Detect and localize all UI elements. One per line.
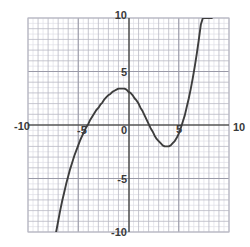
x-tick-label-neg10: -10 bbox=[14, 120, 30, 132]
cubic-graph-figure: -10 -5 0 5 10 10 5 -5 -10 bbox=[0, 0, 250, 247]
x-tick-label-zero: 0 bbox=[121, 124, 127, 136]
y-tick-label-neg10: -10 bbox=[111, 226, 127, 238]
graph-canvas: -10 -5 0 5 10 10 5 -5 -10 bbox=[0, 0, 250, 247]
x-tick-label-pos10: 10 bbox=[233, 121, 245, 133]
y-tick-label-pos5: 5 bbox=[121, 66, 127, 78]
x-tick-label-pos5: 5 bbox=[176, 123, 182, 135]
y-tick-label-neg5: -5 bbox=[117, 173, 127, 185]
y-tick-label-pos10: 10 bbox=[115, 9, 127, 21]
x-tick-label-neg5: -5 bbox=[77, 124, 87, 136]
